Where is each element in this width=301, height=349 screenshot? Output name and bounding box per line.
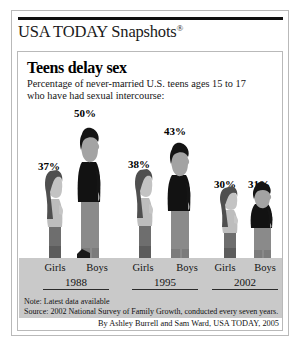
- page-title: Teens delay sex: [27, 59, 127, 77]
- figure-1995-boys: [159, 139, 199, 258]
- axis-label-2002-girls: Girls: [205, 262, 245, 273]
- masthead-rule: [18, 17, 283, 20]
- source-text: Source: 2002 National Survey of Family G…: [24, 307, 278, 317]
- figure-2002-boys: [243, 180, 281, 258]
- data-label-1988-boys: 50%: [63, 107, 107, 119]
- byline-block: By Ashley Burrell and Sam Ward, USA TODA…: [19, 318, 283, 331]
- axis-year-1995: 1995: [132, 276, 198, 290]
- figure-2002-girls: [213, 182, 245, 258]
- usa-today-snapshot-graphic: USA TODAY Snapshots® Teens delay sex Per…: [0, 0, 301, 349]
- chart-plot-area: 37% 50%: [19, 107, 283, 258]
- axis-label-2002-boys: Boys: [245, 262, 283, 273]
- chart-group-1988: 37% 50%: [33, 107, 109, 258]
- axis-label-1988-boys: Boys: [77, 262, 117, 273]
- figure-1988-girls: [37, 165, 71, 258]
- masthead-title: USA TODAY Snapshots®: [18, 22, 183, 42]
- registered-trademark-icon: ®: [177, 23, 184, 33]
- axis-label-1995-girls: Girls: [123, 262, 163, 273]
- chart-group-1995: 38% 43%: [123, 107, 199, 258]
- axis-label-band: Girls Boys 1988 Girls Boys 1995 Girls Bo…: [19, 258, 283, 296]
- chart-group-2002: 30% 31%: [209, 107, 283, 258]
- masthead: USA TODAY Snapshots®: [18, 17, 283, 48]
- axis-label-1995-boys: Boys: [167, 262, 207, 273]
- axis-year-1988: 1988: [43, 276, 109, 290]
- chart-card: Teens delay sex Percentage of never-marr…: [17, 51, 283, 331]
- chart-subtitle: Percentage of never-married U.S. teens a…: [27, 78, 277, 102]
- data-label-1995-boys: 43%: [153, 125, 197, 137]
- figure-1988-boys: [69, 122, 109, 258]
- chart-subtitle-line-1: Percentage of never-married U.S. teens a…: [27, 78, 246, 89]
- axis-label-1988-girls: Girls: [35, 262, 75, 273]
- byline-text: By Ashley Burrell and Sam Ward, USA TODA…: [98, 319, 279, 328]
- axis-year-2002: 2002: [212, 276, 278, 290]
- note-text: Note: Latest data available: [24, 297, 110, 307]
- figure-1995-girls: [127, 163, 161, 258]
- chart-subtitle-line-2: who have had sexual intercourse:: [27, 90, 164, 101]
- masthead-brand-text: USA TODAY Snapshots: [18, 22, 177, 41]
- notes-block: Note: Latest data available Source: 2002…: [19, 296, 283, 318]
